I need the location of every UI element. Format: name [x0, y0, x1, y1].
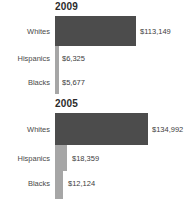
value-label-hispanics: $18,359 — [72, 154, 99, 163]
value-label-blacks: $12,124 — [68, 179, 95, 188]
bar-row: Blacks $12,124 — [0, 171, 193, 199]
bar-rows-2009: Whites $113,149 Hispanics $6,325 Blacks … — [0, 16, 193, 94]
bar-rows-2005: Whites $134,992 Hispanics $18,359 Blacks… — [0, 113, 193, 199]
category-label-whites: Whites — [0, 27, 50, 36]
category-label-whites: Whites — [0, 125, 50, 134]
chart-panel-2009: 2009 Whites $113,149 Hispanics $6,325 Bl… — [0, 0, 193, 96]
bar-whites — [55, 113, 148, 145]
bar-blacks — [55, 70, 59, 94]
bar-whites — [55, 16, 136, 46]
bar-row: Blacks $5,677 — [0, 70, 193, 94]
value-label-whites: $134,992 — [152, 125, 183, 134]
value-label-hispanics: $6,325 — [62, 54, 85, 63]
bar-hispanics — [55, 46, 59, 70]
category-label-blacks: Blacks — [0, 179, 50, 188]
bar-row: Whites $134,992 — [0, 113, 193, 145]
chart-panel-2005: 2005 Whites $134,992 Hispanics $18,359 B… — [0, 97, 193, 199]
chart-sheet: 2009 Whites $113,149 Hispanics $6,325 Bl… — [0, 0, 193, 199]
category-label-blacks: Blacks — [0, 78, 50, 87]
bar-row: Hispanics $6,325 — [0, 46, 193, 70]
bar-hispanics — [55, 145, 67, 171]
value-label-whites: $113,149 — [140, 27, 171, 36]
category-label-hispanics: Hispanics — [0, 54, 50, 63]
value-label-blacks: $5,677 — [62, 78, 85, 87]
bar-row: Hispanics $18,359 — [0, 145, 193, 171]
bar-blacks — [55, 171, 63, 199]
category-label-hispanics: Hispanics — [0, 154, 50, 163]
bar-row: Whites $113,149 — [0, 16, 193, 46]
chart-title-2005: 2005 — [55, 98, 78, 109]
chart-title-2009: 2009 — [55, 1, 78, 12]
